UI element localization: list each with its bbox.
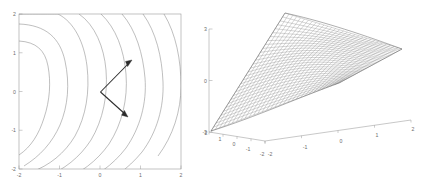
surface-xtick-4: 2 (412, 126, 415, 132)
surface-xtick-1: -1 (303, 144, 308, 150)
surface-xtick-3: 1 (376, 132, 379, 138)
contour-ytick-0: 2 (13, 11, 16, 17)
contour-ytick-3: -1 (11, 127, 16, 133)
contour-ytick-1: 1 (13, 50, 16, 56)
surface-ytick-3: -1 (246, 146, 251, 152)
surface-ytick-0: 2 (205, 130, 208, 136)
contour-xtick-2: 0 (99, 172, 102, 178)
contour-level-7 (158, 14, 181, 156)
contour-plot: -2 -1 0 1 2 2 1 0 -1 -2 (0, 0, 213, 189)
contour-axes-frame (19, 14, 181, 169)
surface-mesh (211, 13, 402, 131)
surface-ztick-0: 3 (204, 26, 207, 32)
contour-level-5 (75, 14, 145, 185)
contour-y-axis: 2 1 0 -1 -2 (11, 11, 22, 172)
contour-ytick-2: 0 (13, 89, 16, 95)
contour-xtick-4: 2 (180, 172, 183, 178)
figure-canvas: -2 -1 0 1 2 2 1 0 -1 -2 (0, 0, 426, 189)
contour-xtick-1: -1 (57, 172, 62, 178)
surface-ytick-4: -2 (260, 151, 265, 157)
contour-curve-set (19, 14, 181, 189)
contour-level-6 (90, 14, 163, 189)
vector-segment-lower (101, 92, 126, 114)
surface-xtick-2: 0 (340, 138, 343, 144)
surface-ytick-1: 1 (219, 136, 222, 142)
vector-segment-upper (101, 63, 130, 92)
contour-level-1 (19, 24, 68, 166)
surface-plot: 3 0 -3 2 1 0 -1 -2 -2 (213, 0, 426, 189)
contour-xtick-3: 1 (139, 172, 142, 178)
surface-ytick-2: 0 (233, 141, 236, 147)
contour-level-4 (60, 14, 126, 181)
gradient-vector-path (101, 60, 133, 117)
contour-level-0 (19, 41, 50, 155)
surface-ztick-1: 0 (204, 78, 207, 84)
contour-ytick-4: -2 (11, 166, 16, 172)
contour-xtick-0: -2 (17, 172, 22, 178)
surface-xtick-0: -2 (268, 151, 273, 157)
